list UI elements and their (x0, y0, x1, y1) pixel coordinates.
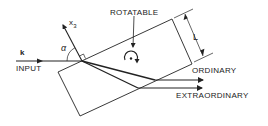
input-arrow-icon (37, 59, 43, 64)
wave-vector-label: k (20, 49, 25, 57)
angle-alpha-label: α (61, 44, 66, 53)
extraordinary-label: EXTRAORDINARY (176, 92, 249, 100)
internal-rays (82, 61, 155, 88)
rotation-icon (125, 51, 140, 64)
rotatable-label: ROTATABLE (110, 9, 159, 17)
rotatable-pointer (133, 16, 134, 47)
ordinary-label: ORDINARY (192, 67, 236, 75)
x3-axis (63, 25, 86, 61)
diagram-svg (0, 0, 268, 126)
crystal-rectangle (58, 19, 192, 116)
x3-axis-subscript: 3 (73, 23, 77, 29)
diagram-canvas: k INPUT α x3 ROTATABLE L ORDINARY EXTRAO… (0, 0, 268, 126)
angle-arc (67, 48, 75, 61)
x3-axis-label: x3 (69, 19, 77, 29)
input-ray (16, 59, 82, 64)
input-label: INPUT (16, 65, 42, 73)
thickness-label: L (193, 33, 198, 42)
